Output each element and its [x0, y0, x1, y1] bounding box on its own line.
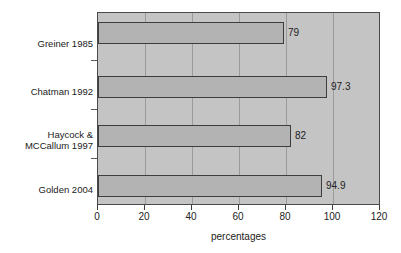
bar-greiner-1985 [98, 22, 284, 44]
x-axis-tick-label-80: 80 [279, 211, 290, 223]
x-axis-tick-label-60: 60 [232, 211, 243, 223]
x-axis-tick-100 [332, 205, 333, 210]
bar-chatman-1992 [98, 76, 327, 98]
x-axis-tick-label-120: 120 [371, 211, 388, 223]
x-axis-tick-label-0: 0 [94, 211, 100, 223]
x-axis-tick-80 [285, 205, 286, 210]
category-label-chatman-1992: Chatman 1992 [0, 86, 93, 97]
x-axis-tick-labels: 0 20 40 60 80 100 120 [97, 211, 380, 225]
bar-golden-2004 [98, 175, 322, 197]
x-axis-tick-label-20: 20 [138, 211, 149, 223]
category-label-haycock-mccallum-1997: Haycock & MCCallum 1997 [0, 129, 93, 151]
x-axis-title: percentages [97, 231, 380, 243]
y-axis-category-labels: Greiner 1985 Chatman 1992 Haycock & MCCa… [0, 12, 93, 205]
bar-value-golden-2004: 94.9 [326, 181, 345, 191]
bar-chart: Greiner 1985 Chatman 1992 Haycock & MCCa… [0, 0, 401, 253]
plot-area: 79 97.3 82 94.9 [97, 12, 380, 205]
x-axis-tick-label-100: 100 [324, 211, 341, 223]
gridline-100 [333, 13, 334, 204]
bar-value-haycock-mccallum-1997: 82 [295, 131, 306, 141]
x-axis-ticks [97, 205, 380, 210]
category-label-golden-2004: Golden 2004 [0, 184, 93, 195]
x-axis-tick-label-40: 40 [185, 211, 196, 223]
x-axis-tick-20 [144, 205, 145, 210]
bar-haycock-mccallum-1997 [98, 125, 291, 147]
x-axis-tick-0 [97, 205, 98, 210]
x-axis-tick-60 [238, 205, 239, 210]
x-axis-tick-120 [379, 205, 380, 210]
category-label-greiner-1985: Greiner 1985 [0, 38, 93, 49]
bar-value-greiner-1985: 79 [288, 28, 299, 38]
bar-value-chatman-1992: 97.3 [331, 82, 350, 92]
x-axis-tick-40 [191, 205, 192, 210]
